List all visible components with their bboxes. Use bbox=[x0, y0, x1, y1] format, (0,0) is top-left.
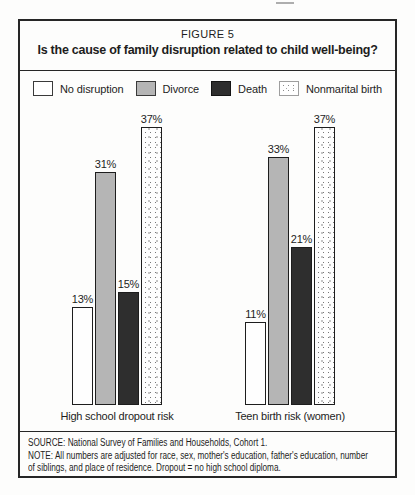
bar-wrap: 11% bbox=[245, 308, 266, 405]
bar-value-label: 21% bbox=[291, 233, 312, 245]
legend-swatch-no-disruption bbox=[33, 81, 53, 96]
bar-divorce bbox=[95, 172, 116, 405]
bar-group-high-school-dropout-risk: 13%31%15%37%High school dropout risk bbox=[27, 113, 207, 422]
chart-legend: No disruption Divorce Death Nonmarital b… bbox=[20, 71, 395, 96]
legend-label: Divorce bbox=[163, 83, 200, 95]
legend-label: Nonmarital birth bbox=[306, 83, 382, 95]
bar-wrap: 37% bbox=[314, 113, 335, 405]
figure-number: FIGURE 5 bbox=[20, 28, 395, 40]
legend-label: No disruption bbox=[60, 83, 124, 95]
bar-wrap: 13% bbox=[72, 293, 93, 405]
note-line-2: of siblings, and place of residence. Dro… bbox=[28, 462, 329, 475]
bar-wrap: 15% bbox=[118, 278, 139, 405]
bar-value-label: 37% bbox=[314, 113, 335, 125]
legend-item-no-disruption: No disruption bbox=[33, 81, 124, 96]
bar-wrap: 33% bbox=[268, 143, 289, 405]
scanned-figure-page: FIGURE 5 Is the cause of family disrupti… bbox=[0, 0, 415, 495]
bar-death bbox=[291, 247, 312, 405]
source-line: SOURCE: National Survey of Families and … bbox=[28, 437, 329, 450]
legend-swatch-nonmarital-birth bbox=[279, 81, 299, 96]
bars-row: 13%31%15%37% bbox=[72, 113, 162, 405]
bar-no-disruption bbox=[245, 322, 266, 405]
bar-wrap: 31% bbox=[95, 158, 116, 405]
legend-swatch-death bbox=[211, 81, 231, 96]
bar-value-label: 37% bbox=[141, 113, 162, 125]
bar-value-label: 11% bbox=[245, 308, 266, 320]
legend-swatch-divorce bbox=[136, 81, 156, 96]
bar-group-teen-birth-risk-women-: 11%33%21%37%Teen birth risk (women) bbox=[200, 113, 380, 422]
note-line-1: NOTE: All numbers are adjusted for race,… bbox=[28, 450, 329, 463]
bar-nonmarital-birth bbox=[314, 127, 335, 405]
bar-value-label: 13% bbox=[72, 293, 93, 305]
bar-value-label: 15% bbox=[118, 278, 139, 290]
bar-wrap: 37% bbox=[141, 113, 162, 405]
bars-row: 11%33%21%37% bbox=[245, 113, 335, 405]
figure-title: Is the cause of family disruption relate… bbox=[20, 43, 395, 57]
legend-item-divorce: Divorce bbox=[136, 81, 200, 96]
bar-death bbox=[118, 292, 139, 405]
category-label: High school dropout risk bbox=[60, 410, 173, 422]
figure-header: FIGURE 5 Is the cause of family disrupti… bbox=[20, 21, 395, 71]
bar-divorce bbox=[268, 157, 289, 405]
bar-nonmarital-birth bbox=[141, 127, 162, 405]
category-label: Teen birth risk (women) bbox=[235, 410, 345, 422]
legend-item-death: Death bbox=[211, 81, 267, 96]
legend-label: Death bbox=[238, 83, 267, 95]
scan-artifact-mark bbox=[276, 2, 294, 4]
legend-item-nonmarital-birth: Nonmarital birth bbox=[279, 81, 382, 96]
bar-value-label: 33% bbox=[268, 143, 289, 155]
figure-box: FIGURE 5 Is the cause of family disrupti… bbox=[18, 19, 397, 478]
chart-area: No disruption Divorce Death Nonmarital b… bbox=[20, 71, 395, 431]
bar-no-disruption bbox=[72, 307, 93, 405]
bar-wrap: 21% bbox=[291, 233, 312, 405]
bar-value-label: 31% bbox=[95, 158, 116, 170]
source-notes: SOURCE: National Survey of Families and … bbox=[20, 431, 395, 476]
